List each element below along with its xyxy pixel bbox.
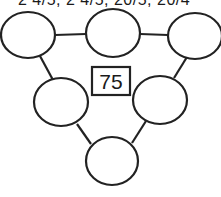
circle-bottom[interactable] <box>86 137 138 185</box>
connector-line <box>77 124 91 144</box>
connector-line <box>140 34 168 35</box>
target-number: 75 <box>99 70 122 93</box>
circle-top-middle[interactable] <box>86 9 140 57</box>
connector-line <box>55 34 86 35</box>
circle-top-right[interactable] <box>168 13 221 59</box>
connector-line <box>132 121 146 143</box>
connector-line <box>174 57 187 78</box>
circle-middle-right[interactable] <box>133 76 187 124</box>
circle-middle-left[interactable] <box>34 78 88 126</box>
circle-top-left[interactable] <box>1 12 55 58</box>
triangle-puzzle-diagram: 75 <box>0 0 221 197</box>
connector-line <box>40 56 53 80</box>
